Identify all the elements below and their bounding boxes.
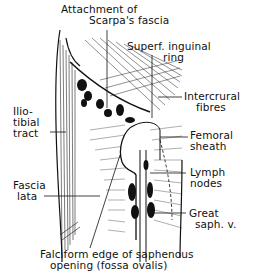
label-line: saph. v. (189, 219, 236, 230)
label-line: ring (127, 52, 211, 63)
label-intercrural-fibres: Intercrural fibres (184, 91, 240, 113)
label-scarpa-attachment: Attachment of Scarpa's fascia (61, 4, 169, 26)
iliotibial-tract-hatching (60, 40, 75, 250)
superficial-inguinal-lymph-nodes (77, 79, 135, 123)
label-superf-inguinal-ring: Superf. inguinal ring (127, 41, 211, 63)
label-line: tract (13, 128, 40, 139)
saphenous-opening-edge (121, 125, 136, 240)
label-line: fibres (184, 102, 240, 113)
label-line: Scarpa's fascia (61, 15, 169, 26)
label-line: lata (13, 191, 46, 202)
label-femoral-sheath: Femoral sheath (190, 130, 233, 152)
label-line: opening (fossa ovalis) (40, 260, 194, 271)
label-falciform-edge: Falciform edge of saphenous opening (fos… (40, 249, 194, 271)
label-iliotibial-tract: Ilio- tibial tract (13, 106, 40, 139)
label-lymph-nodes: Lymph nodes (190, 167, 225, 189)
label-great-saphenous-vein: Great saph. v. (189, 208, 236, 230)
label-line: nodes (190, 178, 225, 189)
dashed-line (160, 140, 172, 220)
label-line: sheath (190, 141, 233, 152)
label-fascia-lata: Fascia lata (13, 180, 46, 202)
femoral-sheath (135, 122, 160, 160)
